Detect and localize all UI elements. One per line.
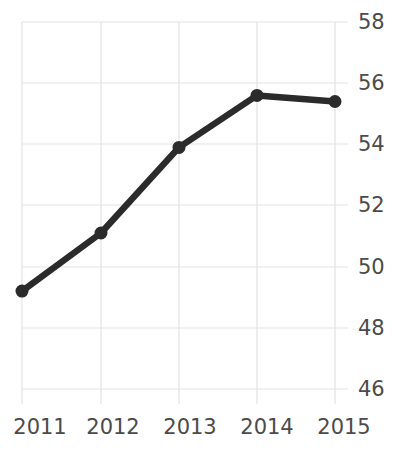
plot-area	[0, 0, 399, 449]
x-tick-label-2014: 2014	[240, 415, 293, 439]
x-tick-label-2012: 2012	[86, 415, 139, 439]
x-tick-label-2015: 2015	[317, 415, 370, 439]
data-point-2015	[329, 95, 342, 108]
data-point-2012	[95, 227, 108, 240]
y-tick-label-54: 54	[358, 132, 399, 156]
x-tick-label-2013: 2013	[163, 415, 216, 439]
x-tick-label-2011: 2011	[13, 415, 66, 439]
y-tick-label-56: 56	[358, 71, 399, 95]
y-tick-label-46: 46	[358, 377, 399, 401]
data-point-2014	[251, 89, 264, 102]
y-tick-label-52: 52	[358, 193, 399, 217]
y-tick-label-50: 50	[358, 255, 399, 279]
y-tick-label-48: 48	[358, 316, 399, 340]
data-point-2013	[173, 141, 186, 154]
data-point-2011	[16, 285, 29, 298]
vertical-gridlines	[22, 22, 335, 404]
line-chart: 58 56 54 52 50 48 46 2011 2012 2013 2014…	[0, 0, 399, 449]
y-tick-label-58: 58	[358, 10, 399, 34]
horizontal-gridlines	[22, 22, 348, 389]
